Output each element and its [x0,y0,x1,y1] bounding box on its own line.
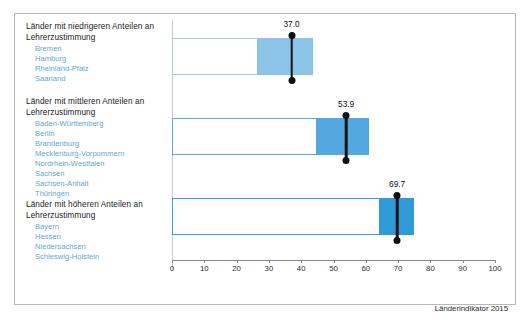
state-list-high: Bayern Hessen Niedersachsen Schleswig-Ho… [26,222,176,262]
x-axis-tick-label: 100 [488,264,501,273]
x-axis-tick-label: 70 [394,264,403,273]
state-item: Baden-Württemberg [26,119,176,129]
state-item: Sachsen [26,169,176,179]
x-axis-tick [204,260,205,263]
state-item: Hamburg [26,54,176,64]
x-axis-tick-label: 10 [200,264,209,273]
marker-dot-top [288,32,295,39]
state-item: Nordrhein-Westfalen [26,159,176,169]
group-block-mid: Länder mit mittleren Anteilen an Lehrerz… [26,97,176,198]
state-item: Brandenburg [26,139,176,149]
marker-dot-bottom [288,77,295,84]
bar-fill [257,38,313,75]
x-axis-tick [334,260,335,263]
marker-line [396,193,399,240]
state-list-mid: Baden-Württemberg Berlin Brandenburg Mec… [26,119,176,198]
marker-line [290,33,293,80]
category-label-column: Länder mit niedrigeren Anteilen an Lehre… [26,22,176,277]
x-axis-tick-label: 20 [232,264,241,273]
x-axis-tick-label: 50 [329,264,338,273]
state-item: Mecklenburg-Vorpommern [26,149,176,159]
state-item: Bremen [26,44,176,54]
chart-figure: Länder mit niedrigeren Anteilen an Lehre… [0,0,530,327]
group-heading-mid: Länder mit mittleren Anteilen an Lehrerz… [26,97,176,118]
marker-dot-bottom [394,237,401,244]
x-axis-tick [495,260,496,263]
group-heading-high: Länder mit höheren Anteilen an Lehrerzus… [26,200,176,221]
state-list-low: Bremen Hamburg Rheinland-Pfalz Saarland [26,44,176,84]
x-axis-tick [366,260,367,263]
x-axis-tick-label: 40 [297,264,306,273]
plot-area: 37.053.969.70102030405060708090100 [172,20,495,270]
bar-fill [316,118,369,155]
state-item: Saarland [26,74,176,84]
marker-value-label: 37.0 [283,19,299,29]
x-axis-tick-label: 30 [265,264,274,273]
state-item: Rheinland-Pfalz [26,64,176,74]
x-axis-tick [237,260,238,263]
state-item: Berlin [26,129,176,139]
x-axis-tick-label: 90 [458,264,467,273]
state-item: Schleswig-Holstein [26,252,176,262]
x-axis-tick-label: 0 [170,264,174,273]
x-axis-tick [463,260,464,263]
group-block-low: Länder mit niedrigeren Anteilen an Lehre… [26,22,176,84]
state-item: Bayern [26,222,176,232]
x-axis-tick [269,260,270,263]
x-axis-tick [430,260,431,263]
x-axis-tick-label: 80 [426,264,435,273]
group-block-high: Länder mit höheren Anteilen an Lehrerzus… [26,200,176,262]
marker-line [345,113,348,160]
state-item: Hessen [26,232,176,242]
x-axis-tick [172,260,173,263]
marker-dot-top [394,192,401,199]
marker-dot-top [343,112,350,119]
x-axis-tick-label: 60 [361,264,370,273]
group-heading-low: Länder mit niedrigeren Anteilen an Lehre… [26,22,176,43]
state-item: Sachsen-Anhalt [26,179,176,189]
x-axis-tick [398,260,399,263]
marker-value-label: 53.9 [338,99,354,109]
marker-dot-bottom [343,157,350,164]
state-item: Thüringen [26,189,176,199]
x-axis-tick [301,260,302,263]
source-credit: Länderindikator 2015 [435,304,508,313]
marker-value-label: 69.7 [389,179,405,189]
state-item: Niedersachsen [26,242,176,252]
